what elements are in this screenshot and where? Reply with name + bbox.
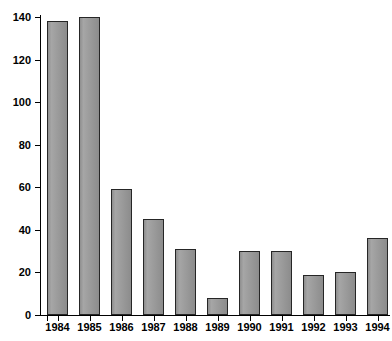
x-axis-tick-label: 1986 (109, 322, 133, 333)
bar (111, 189, 132, 315)
x-axis-tick-label: 1993 (333, 322, 357, 333)
bar (175, 249, 196, 315)
y-axis-tick: 0 (35, 315, 40, 316)
bar (239, 251, 260, 315)
bar (47, 21, 68, 315)
x-axis-tick-label: 1988 (173, 322, 197, 333)
x-axis-tick-label: 1990 (237, 322, 261, 333)
bar (335, 272, 356, 315)
x-axis-tick (47, 316, 48, 321)
y-axis-tick-label: 20 (19, 267, 31, 278)
bar (207, 298, 228, 315)
y-axis-tick-label: 140 (13, 12, 31, 23)
x-axis-tick-label: 1984 (45, 322, 69, 333)
bar-chart: 020406080100120140 198419851986198719881… (0, 0, 392, 341)
x-axis-tick-label: 1992 (301, 322, 325, 333)
bar (271, 251, 292, 315)
bar (79, 17, 100, 315)
x-axis-tick-label: 1994 (365, 322, 389, 333)
x-axis-tick-label: 1987 (141, 322, 165, 333)
y-axis-tick-label: 0 (25, 310, 31, 321)
bar-series (40, 17, 390, 315)
x-axis-line (40, 315, 390, 316)
y-axis-tick-label: 120 (13, 54, 31, 65)
bar (303, 275, 324, 315)
y-axis-tick-label: 80 (19, 139, 31, 150)
bar (143, 219, 164, 315)
x-axis-tick-label: 1989 (205, 322, 229, 333)
x-axis-tick-label: 1985 (77, 322, 101, 333)
y-axis-tick-label: 100 (13, 97, 31, 108)
x-axis-tick-label: 1991 (269, 322, 293, 333)
y-axis-tick-label: 60 (19, 182, 31, 193)
bar (367, 238, 388, 315)
y-axis-tick-label: 40 (19, 224, 31, 235)
